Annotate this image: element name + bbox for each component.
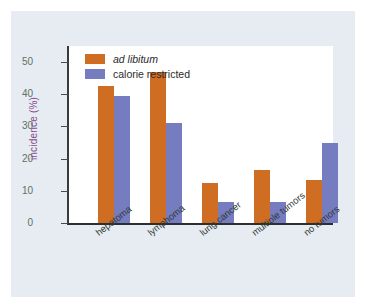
- bar: [98, 86, 114, 223]
- bar: [150, 72, 166, 223]
- y-axis-line: [67, 46, 69, 224]
- y-tick-label: 30: [0, 121, 33, 131]
- y-tick-mark: [61, 94, 68, 95]
- legend-swatch-ad-libitum: [85, 54, 105, 64]
- legend-item-ad-libitum: ad libitum: [85, 52, 190, 65]
- legend-swatch-calorie-restricted: [85, 69, 105, 79]
- y-tick-label: 50: [0, 57, 33, 67]
- legend-label-ad-libitum: ad libitum: [113, 53, 158, 65]
- legend-item-calorie-restricted: calorie restricted: [85, 67, 190, 80]
- legend-label-calorie-restricted: calorie restricted: [113, 68, 190, 80]
- y-tick-label: 40: [0, 89, 33, 99]
- y-tick-label: 0: [0, 218, 33, 228]
- chart-figure: incidence (%) 01020304050 hepatomalympho…: [11, 11, 355, 297]
- y-tick-mark: [61, 159, 68, 160]
- y-tick-label: 20: [0, 154, 33, 164]
- y-tick-mark: [61, 62, 68, 63]
- y-tick-mark: [61, 223, 68, 224]
- y-tick-mark: [61, 126, 68, 127]
- y-tick-label: 10: [0, 186, 33, 196]
- chart-legend: ad libitum calorie restricted: [85, 52, 190, 82]
- y-tick-mark: [61, 191, 68, 192]
